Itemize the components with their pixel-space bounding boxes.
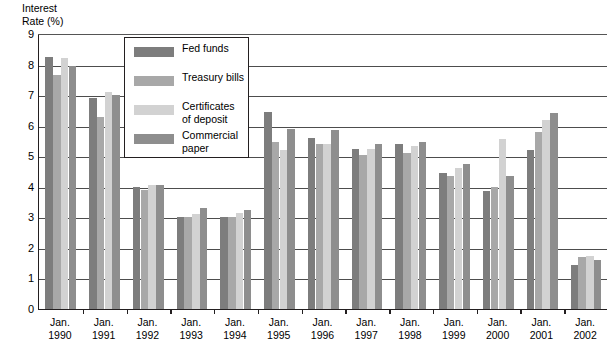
y-axis-tick-label: 2 — [4, 241, 34, 253]
y-axis-tick-label: 8 — [4, 58, 34, 70]
bar — [308, 138, 315, 309]
bar — [228, 217, 235, 309]
bar — [594, 260, 601, 309]
bar — [287, 129, 294, 309]
x-axis-label: Jan. 2001 — [519, 316, 563, 342]
x-axis-label: Jan. 1992 — [126, 316, 170, 342]
legend-swatch-treasury-bills — [134, 76, 174, 86]
legend-label-certificates-of-deposit: Certificates of deposit — [182, 100, 235, 125]
bar — [184, 217, 191, 309]
y-axis-title: Interest Rate (%) — [22, 2, 63, 27]
x-axis-label: Jan. 1997 — [344, 316, 388, 342]
legend-item: Commercial paper — [125, 131, 248, 160]
legend-label-treasury-bills: Treasury bills — [182, 71, 244, 84]
bar — [463, 164, 470, 309]
bar — [323, 144, 330, 309]
bar — [419, 142, 426, 309]
y-axis-tick-label: 5 — [4, 150, 34, 162]
bar — [192, 214, 199, 309]
x-axis-label: Jan. 2000 — [476, 316, 520, 342]
bar — [280, 150, 287, 309]
y-axis-tick-label: 4 — [4, 180, 34, 192]
bar — [112, 95, 119, 309]
bar-group — [264, 35, 296, 309]
bar — [411, 146, 418, 309]
x-axis-tick — [564, 309, 565, 314]
x-axis-tick — [389, 309, 390, 314]
bar — [367, 149, 374, 309]
x-axis-tick — [302, 309, 303, 314]
x-axis-label: Jan. 1990 — [38, 316, 82, 342]
bar — [177, 217, 184, 309]
bar — [53, 75, 60, 309]
bar-group — [307, 35, 339, 309]
bar — [220, 217, 227, 309]
x-axis-label: Jan. 1993 — [169, 316, 213, 342]
bar — [133, 187, 140, 309]
legend-label-commercial-paper: Commercial paper — [182, 129, 238, 154]
bar — [156, 185, 163, 309]
bar-group — [439, 35, 471, 309]
x-axis-tick — [433, 309, 434, 314]
legend-swatch-certificates-of-deposit — [134, 105, 174, 115]
x-axis-tick — [345, 309, 346, 314]
bar — [578, 257, 585, 309]
x-axis-tick — [520, 309, 521, 314]
bar — [244, 210, 251, 309]
x-axis-label: Jan. 1996 — [301, 316, 345, 342]
x-axis-tick — [214, 309, 215, 314]
x-axis-label: Jan. 1995 — [257, 316, 301, 342]
x-axis-tick — [258, 309, 259, 314]
bar — [316, 144, 323, 309]
bar — [272, 142, 279, 309]
x-axis-tick — [170, 309, 171, 314]
bar — [527, 150, 534, 309]
y-axis-tick-label: 1 — [4, 272, 34, 284]
y-axis-tick-label: 7 — [4, 89, 34, 101]
bar — [542, 120, 549, 309]
bar — [375, 144, 382, 309]
legend-item: Certificates of deposit — [125, 102, 248, 131]
bar — [439, 173, 446, 309]
bar — [586, 256, 593, 309]
bar — [97, 117, 104, 310]
bar — [483, 191, 490, 309]
x-axis-label: Jan. 1999 — [432, 316, 476, 342]
bar — [571, 265, 578, 309]
bar — [447, 176, 454, 309]
bar-group — [45, 35, 77, 309]
bar-group — [482, 35, 514, 309]
bar — [491, 187, 498, 309]
bar — [200, 208, 207, 309]
bar — [69, 66, 76, 309]
bar — [499, 139, 506, 309]
bar — [455, 168, 462, 309]
legend-swatch-fed-funds — [134, 47, 174, 57]
legend-swatch-commercial-paper — [134, 134, 174, 144]
legend-item: Fed funds — [125, 44, 248, 73]
plot-top-rule — [38, 34, 607, 35]
bar — [264, 112, 271, 309]
bar — [331, 130, 338, 309]
bar — [61, 58, 68, 309]
y-axis-tick-label: 6 — [4, 119, 34, 131]
bar — [506, 176, 513, 309]
bar-group — [88, 35, 120, 309]
x-axis-label: Jan. 2002 — [563, 316, 607, 342]
bar-group — [526, 35, 558, 309]
x-axis-labels: Jan. 1990Jan. 1991Jan. 1992Jan. 1993Jan.… — [38, 316, 607, 356]
x-axis-tick — [83, 309, 84, 314]
bar — [395, 144, 402, 309]
bar — [352, 149, 359, 309]
bar — [148, 185, 155, 309]
x-axis-label: Jan. 1998 — [388, 316, 432, 342]
bar — [236, 213, 243, 309]
bar — [89, 98, 96, 309]
x-axis-label: Jan. 1991 — [82, 316, 126, 342]
legend-label-fed-funds: Fed funds — [182, 42, 229, 55]
x-axis-tick — [477, 309, 478, 314]
bar — [105, 92, 112, 309]
bar-group — [570, 35, 602, 309]
x-axis-label: Jan. 1994 — [213, 316, 257, 342]
bar — [403, 153, 410, 309]
